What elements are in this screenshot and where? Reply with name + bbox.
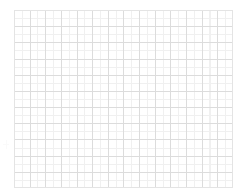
chart-canvas bbox=[0, 0, 245, 195]
x-axis-label bbox=[14, 188, 233, 195]
plot-border bbox=[14, 10, 233, 188]
y-axis-label bbox=[0, 10, 13, 188]
minor-gridlines bbox=[14, 10, 233, 188]
data-series-layer bbox=[14, 10, 233, 188]
chart-title bbox=[14, 0, 233, 8]
margin-smudge-stroke-horizontal bbox=[3, 144, 9, 145]
major-gridlines bbox=[14, 10, 233, 188]
margin-smudge-mark bbox=[3, 140, 9, 149]
margin-smudge-stroke-vertical bbox=[6, 140, 7, 149]
plot-grid-area[interactable] bbox=[14, 10, 233, 188]
